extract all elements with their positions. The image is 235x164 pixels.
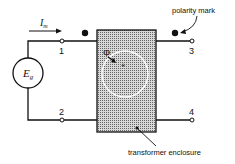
polarity-dot-primary <box>82 30 88 36</box>
terminal-4-label: 4 <box>189 107 194 117</box>
terminal-1 <box>60 39 64 43</box>
flux-plus-sign: + <box>121 62 125 69</box>
polarity-mark-annotation: polarity mark <box>172 6 215 15</box>
wire-top-left <box>28 41 60 58</box>
current-label: Im <box>39 17 48 29</box>
terminal-3-label: 3 <box>189 46 194 56</box>
terminal-2 <box>60 118 64 122</box>
terminal-2-label: 2 <box>59 107 64 117</box>
enclosure-leader-dot <box>135 126 138 129</box>
terminal-4 <box>190 118 194 122</box>
current-arrow <box>29 29 62 34</box>
terminal-1-label: 1 <box>59 46 64 56</box>
transformer-diagram: Im Eg 1 2 3 4 Φ + polarity mark transfor… <box>0 0 235 164</box>
flux-label: Φ <box>103 48 110 58</box>
polarity-dot-secondary <box>172 30 178 36</box>
terminal-3 <box>190 39 194 43</box>
enclosure-annotation: transformer enclosure <box>128 148 201 157</box>
polarity-mark-arrowhead-icon <box>180 29 186 34</box>
wire-bottom-left <box>28 88 60 120</box>
